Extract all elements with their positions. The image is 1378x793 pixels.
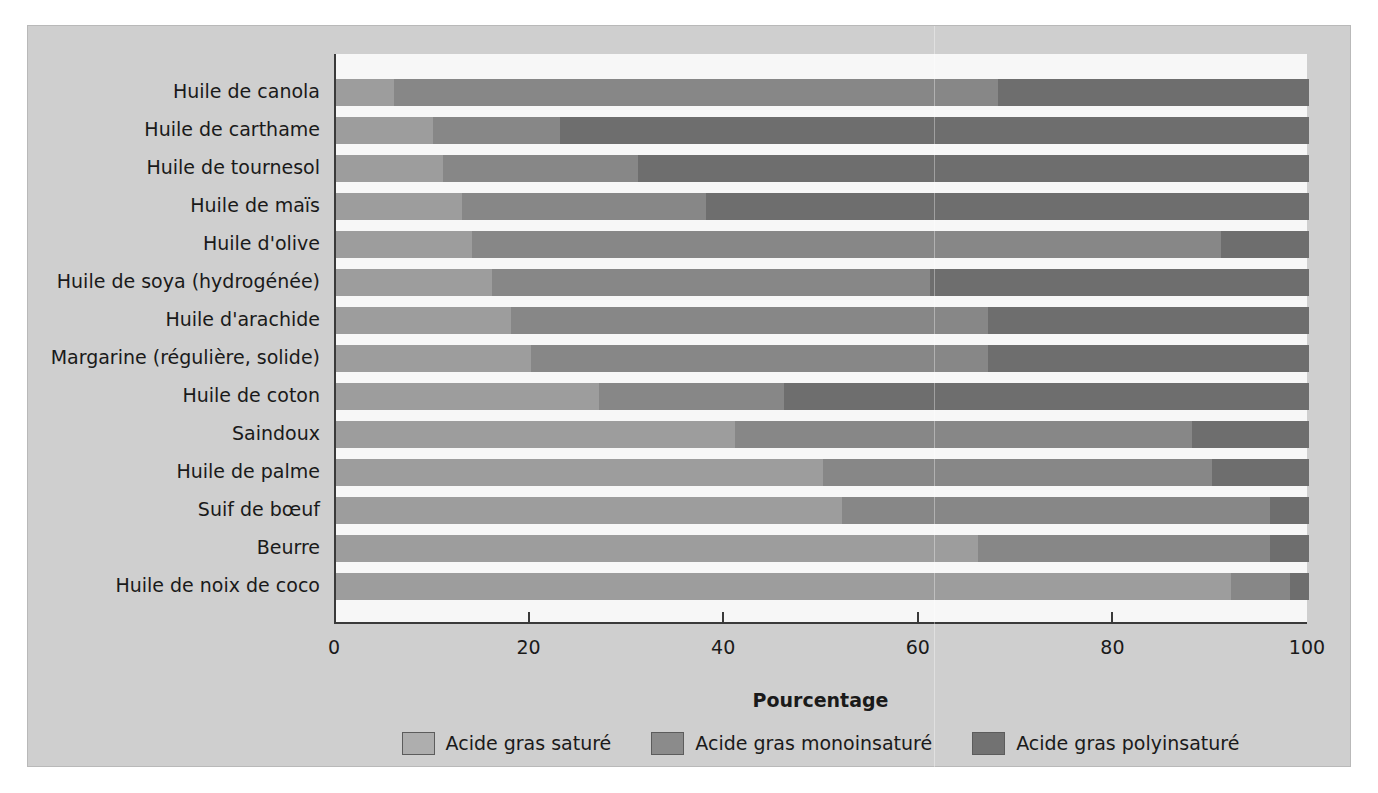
bar-row: [336, 573, 1307, 600]
bar-segment-saturated: [336, 79, 394, 106]
bar-segment-saturated: [336, 383, 599, 410]
bar-segment-monounsaturated: [1231, 573, 1289, 600]
stacked-bar: [336, 193, 1309, 220]
axis-tick-mark: [722, 612, 724, 624]
bar-segment-polyunsaturated: [930, 269, 1309, 296]
bar-segment-monounsaturated: [433, 117, 559, 144]
axis-tick-label: 0: [328, 636, 340, 658]
axis-tick-label: 20: [517, 636, 541, 658]
bar-segment-polyunsaturated: [998, 79, 1309, 106]
bar-segment-polyunsaturated: [1290, 573, 1309, 600]
bar-segment-monounsaturated: [599, 383, 784, 410]
stacked-bar: [336, 269, 1309, 296]
category-label: Huile de tournesol: [146, 158, 320, 177]
stacked-bar: [336, 421, 1309, 448]
bar-segment-saturated: [336, 231, 472, 258]
category-label: Huile de palme: [176, 462, 320, 481]
axis-tick-label: 40: [711, 636, 735, 658]
stacked-bar: [336, 117, 1309, 144]
legend-swatch-icon: [972, 732, 1005, 755]
legend-item: Acide gras monoinsaturé: [651, 732, 932, 755]
bar-segment-monounsaturated: [462, 193, 705, 220]
category-label: Huile de carthame: [144, 120, 320, 139]
bar-row: [336, 155, 1307, 182]
bar-row: [336, 79, 1307, 106]
bar-segment-saturated: [336, 573, 1231, 600]
bar-segment-monounsaturated: [842, 497, 1270, 524]
bar-row: [336, 459, 1307, 486]
bar-segment-polyunsaturated: [1270, 497, 1309, 524]
bar-segment-monounsaturated: [511, 307, 988, 334]
bar-segment-monounsaturated: [443, 155, 638, 182]
bar-segment-saturated: [336, 459, 823, 486]
bar-segment-saturated: [336, 193, 462, 220]
category-label: Huile de maïs: [190, 196, 320, 215]
bar-segment-polyunsaturated: [1212, 459, 1309, 486]
stacked-bar: [336, 231, 1309, 258]
stacked-bar: [336, 459, 1309, 486]
bar-row: [336, 421, 1307, 448]
bar-segment-polyunsaturated: [1192, 421, 1309, 448]
legend-item: Acide gras polyinsaturé: [972, 732, 1239, 755]
category-label: Huile de coton: [182, 386, 320, 405]
legend-label: Acide gras monoinsaturé: [695, 732, 932, 754]
bar-segment-saturated: [336, 307, 511, 334]
legend-item: Acide gras saturé: [402, 732, 612, 755]
bar-segment-polyunsaturated: [1221, 231, 1309, 258]
category-label: Beurre: [257, 538, 320, 557]
bar-segment-polyunsaturated: [560, 117, 1309, 144]
bar-segment-saturated: [336, 421, 735, 448]
stacked-bar: [336, 345, 1309, 372]
bar-row: [336, 117, 1307, 144]
category-label: Huile d'olive: [203, 234, 320, 253]
category-label: Huile de noix de coco: [115, 576, 320, 595]
bar-segment-polyunsaturated: [638, 155, 1309, 182]
category-label: Saindoux: [232, 424, 320, 443]
stacked-bar: [336, 307, 1309, 334]
legend-label: Acide gras polyinsaturé: [1016, 732, 1239, 754]
bar-row: [336, 345, 1307, 372]
axis-tick-label: 60: [906, 636, 930, 658]
bar-segment-monounsaturated: [531, 345, 988, 372]
bar-segment-saturated: [336, 535, 978, 562]
bar-segment-monounsaturated: [735, 421, 1192, 448]
bar-segment-monounsaturated: [394, 79, 997, 106]
x-axis-title: Pourcentage: [334, 689, 1307, 711]
bar-row: [336, 231, 1307, 258]
bar-row: [336, 497, 1307, 524]
bar-segment-saturated: [336, 155, 443, 182]
bar-segment-monounsaturated: [472, 231, 1221, 258]
stacked-bar: [336, 155, 1309, 182]
category-label: Huile de soya (hydrogénée): [57, 272, 320, 291]
stacked-bar: [336, 497, 1309, 524]
bar-row: [336, 193, 1307, 220]
bar-segment-polyunsaturated: [1270, 535, 1309, 562]
axis-tick-label: 100: [1289, 636, 1325, 658]
bar-row: [336, 269, 1307, 296]
legend-swatch-icon: [651, 732, 684, 755]
chart-legend: Acide gras saturéAcide gras monoinsaturé…: [334, 723, 1307, 763]
bar-segment-saturated: [336, 345, 531, 372]
axis-tick-mark: [1111, 612, 1113, 624]
bar-segment-monounsaturated: [492, 269, 930, 296]
bar-segment-polyunsaturated: [988, 307, 1309, 334]
category-label: Huile de canola: [173, 82, 320, 101]
legend-swatch-icon: [402, 732, 435, 755]
bar-segment-saturated: [336, 117, 433, 144]
stacked-bar: [336, 535, 1309, 562]
bar-row: [336, 535, 1307, 562]
plot-area: [334, 54, 1307, 624]
legend-label: Acide gras saturé: [446, 732, 612, 754]
category-label: Margarine (régulière, solide): [51, 348, 320, 367]
axis-tick-mark: [917, 612, 919, 624]
bar-segment-saturated: [336, 269, 492, 296]
category-label: Suif de bœuf: [198, 500, 320, 519]
figure-panel: Huile de canolaHuile de carthameHuile de…: [27, 25, 1351, 767]
axis-tick-label: 80: [1100, 636, 1124, 658]
bar-segment-monounsaturated: [978, 535, 1270, 562]
bar-row: [336, 307, 1307, 334]
stacked-bar: [336, 383, 1309, 410]
stacked-bar: [336, 79, 1309, 106]
bars-container: [336, 54, 1307, 622]
bar-segment-polyunsaturated: [988, 345, 1309, 372]
